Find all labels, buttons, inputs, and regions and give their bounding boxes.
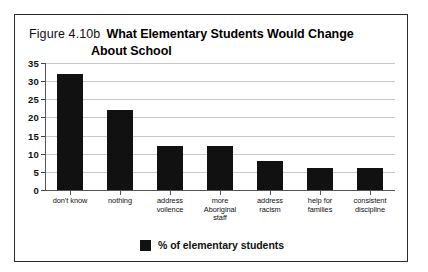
bar: [207, 146, 233, 190]
bar: [57, 74, 83, 190]
x-tick-mark: [270, 191, 271, 195]
gridline: [45, 99, 395, 100]
figure-frame: Figure 4.10bWhat Elementary Students Wou…: [14, 14, 408, 262]
bar: [107, 110, 133, 190]
chart-plot-wrapper: 05101520253035 don't knownothingaddressv…: [15, 15, 409, 263]
x-tick-mark: [70, 191, 71, 195]
x-tick-label: help forfamilies: [295, 197, 345, 214]
gridline: [45, 63, 395, 64]
x-tick-label: don't know: [45, 197, 95, 206]
y-tick-label: 5: [34, 166, 39, 177]
x-tick-mark: [170, 191, 171, 195]
gridline: [45, 81, 395, 82]
x-tick-label: addressvoilence: [145, 197, 195, 214]
x-tick-mark: [120, 191, 121, 195]
gridline: [45, 117, 395, 118]
x-tick-mark: [220, 191, 221, 195]
x-tick-mark: [320, 191, 321, 195]
y-tick-label: 25: [28, 94, 39, 105]
x-tick-label: consistentdiscipline: [345, 197, 395, 214]
legend-label: % of elementary students: [158, 239, 284, 251]
gridline: [45, 136, 395, 137]
y-tick-label: 20: [28, 112, 39, 123]
x-tick-label: moreAboriginalstaff: [195, 197, 245, 223]
bar: [307, 168, 333, 190]
bar: [357, 168, 383, 190]
y-tick-label: 10: [28, 148, 39, 159]
y-axis-line: [45, 63, 46, 190]
x-tick-label: addressracism: [245, 197, 295, 214]
y-tick-label: 15: [28, 130, 39, 141]
x-tick-mark: [370, 191, 371, 195]
chart-legend: % of elementary students: [15, 239, 409, 251]
x-tick-label: nothing: [95, 197, 145, 206]
bar-chart-plot-area: 05101520253035 don't knownothingaddressv…: [45, 63, 395, 190]
y-tick-label: 30: [28, 76, 39, 87]
bar: [157, 146, 183, 190]
legend-swatch-icon: [140, 240, 151, 251]
y-tick-label: 0: [34, 185, 39, 196]
y-tick-label: 35: [28, 58, 39, 69]
bar: [257, 161, 283, 190]
